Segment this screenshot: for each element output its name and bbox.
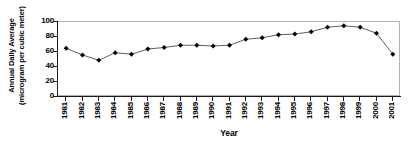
y-axis-tick-mark [53, 81, 57, 82]
y-axis-tick-label: 80 [32, 32, 54, 40]
y-axis-tick-label: 0 [32, 92, 54, 100]
x-axis-tick-mark [114, 97, 115, 101]
x-axis-tick-mark [327, 97, 328, 101]
x-axis-tick-mark [163, 97, 164, 101]
x-axis-title: Year [57, 128, 401, 138]
x-axis-tick-mark [98, 97, 99, 101]
x-axis-tick-mark [82, 97, 83, 101]
x-axis-tick-label: 1986 [142, 102, 152, 128]
data-point-marker [129, 52, 134, 57]
y-axis-tick-label: 100 [32, 17, 54, 25]
x-axis-tick-mark [245, 97, 246, 101]
y-axis-tick-labels: 020406080100 [30, 0, 54, 141]
x-axis-tick-mark [310, 97, 311, 101]
y-axis-tick-mark [53, 21, 57, 22]
x-axis-tick-label: 1999 [354, 102, 364, 128]
x-axis-tick-label: 1981 [60, 102, 70, 128]
plot-area [57, 21, 400, 96]
x-axis-tick-mark [229, 97, 230, 101]
x-axis-tick-label: 1987 [158, 102, 168, 128]
data-point-marker [243, 37, 248, 42]
x-axis-tick-mark [261, 97, 262, 101]
data-point-marker [292, 32, 297, 37]
x-axis-tick-mark [359, 97, 360, 101]
data-point-marker [358, 25, 363, 30]
x-axis-tick-label: 1992 [240, 102, 250, 128]
y-axis-tick-mark [53, 96, 57, 97]
y-axis-tick-mark [53, 51, 57, 52]
x-axis-tick-label: 1989 [191, 102, 201, 128]
x-axis-tick-label: 1994 [273, 102, 283, 128]
data-point-marker [96, 58, 101, 63]
data-series-svg [58, 22, 401, 97]
chart-container: Annual Daily Average (microgram per cubi… [0, 0, 416, 141]
x-axis-tick-label: 1984 [109, 102, 119, 128]
y-axis-line [57, 21, 58, 97]
x-axis-tick-mark [294, 97, 295, 101]
x-axis-tick-mark [376, 97, 377, 101]
x-axis-tick-mark [343, 97, 344, 101]
data-point-marker [227, 43, 232, 48]
x-axis-tick-mark [147, 97, 148, 101]
data-point-marker [113, 50, 118, 55]
x-axis-tick-label: 1995 [289, 102, 299, 128]
y-axis-title-line-1: Annual Daily Average [7, 6, 17, 105]
y-axis-tick-label: 20 [32, 77, 54, 85]
data-point-marker [194, 43, 199, 48]
data-point-marker [260, 35, 265, 40]
x-axis-tick-mark [65, 97, 66, 101]
y-axis-tick-label: 40 [32, 62, 54, 70]
x-axis-tick-label: 1998 [338, 102, 348, 128]
data-point-marker [325, 25, 330, 30]
y-axis-title: Annual Daily Average (microgram per cubi… [0, 0, 32, 110]
x-axis-tick-label: 2001 [387, 102, 397, 128]
x-axis-tick-label: 1996 [305, 102, 315, 128]
data-point-marker [178, 43, 183, 48]
data-point-marker [276, 32, 281, 37]
x-axis-tick-label: 1985 [126, 102, 136, 128]
x-axis-tick-mark [392, 97, 393, 101]
data-point-marker [162, 45, 167, 50]
data-point-marker [309, 29, 314, 34]
y-axis-title-line-2: (microgram per cubic meter) [16, 6, 26, 105]
x-axis-tick-label: 2000 [371, 102, 381, 128]
x-axis-tick-label: 1983 [93, 102, 103, 128]
data-point-marker [64, 46, 69, 51]
data-point-marker [211, 44, 216, 49]
data-point-marker [80, 53, 85, 58]
x-axis-tick-mark [212, 97, 213, 101]
data-point-marker [145, 47, 150, 52]
x-axis-tick-label: 1997 [322, 102, 332, 128]
y-axis-tick-mark [53, 66, 57, 67]
x-axis-tick-label: 1982 [77, 102, 87, 128]
x-axis-tick-mark [131, 97, 132, 101]
x-axis-tick-label: 1991 [224, 102, 234, 128]
y-axis-tick-mark [53, 36, 57, 37]
data-point-marker [341, 23, 346, 28]
x-axis-tick-label: 1988 [175, 102, 185, 128]
x-axis-tick-label: 1990 [207, 102, 217, 128]
x-axis-tick-label: 1993 [256, 102, 266, 128]
x-axis-tick-mark [278, 97, 279, 101]
x-axis-tick-mark [180, 97, 181, 101]
y-axis-tick-label: 60 [32, 47, 54, 55]
x-axis-tick-mark [196, 97, 197, 101]
